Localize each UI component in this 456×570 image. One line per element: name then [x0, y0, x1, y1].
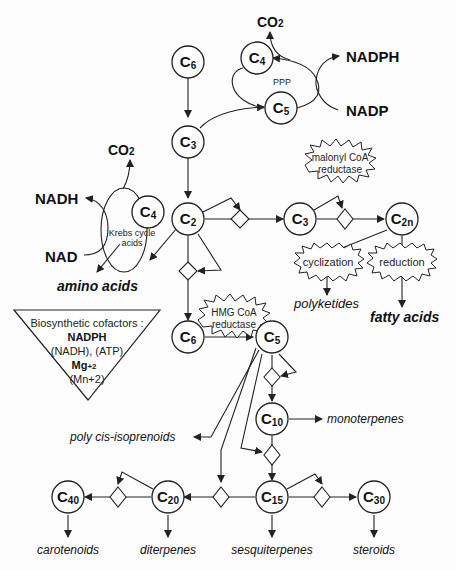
diamond-c2-c3 — [231, 210, 249, 228]
pathway-diagram: malonyl CoA reductase cyclization reduct… — [0, 0, 456, 570]
diamond-c2-c6 — [179, 262, 197, 280]
krebs-label-1: Krebs cycle — [109, 228, 156, 238]
edge-krebs-amino — [97, 244, 120, 272]
monoterpenes-label: monoterpenes — [327, 412, 404, 426]
node-c40: C40 — [52, 481, 84, 513]
malonyl-label-1: malonyl CoA — [312, 152, 369, 163]
diamond-c15-c30 — [314, 487, 330, 507]
edge-nadp-nadph — [316, 56, 339, 110]
fatty-acids-label: fatty acids — [370, 309, 439, 325]
carotenoids-label: carotenoids — [37, 543, 99, 557]
steroids-label: steroids — [353, 543, 395, 557]
reduction-burst: reduction — [367, 243, 437, 281]
node-c3-right: C3 — [284, 203, 316, 235]
edge-malonyl-diamond — [314, 196, 342, 210]
edge-c5-polycis — [194, 350, 259, 437]
nadph-label: NADPH — [346, 48, 399, 65]
cofactor-mn: (Mn+2) — [69, 373, 104, 385]
node-c2n: C2n — [386, 203, 418, 235]
ppp-label: PPP — [273, 77, 291, 87]
edge-c2-diamond2-loop — [198, 234, 221, 271]
node-c30: C30 — [358, 481, 390, 513]
cofactors-box: Biosynthetic cofactors : NADPH (NADH), (… — [14, 310, 160, 400]
cyclization-burst: cyclization — [294, 243, 364, 281]
co2-top-label: CO2 — [257, 14, 284, 30]
cofactors-heading: Biosynthetic cofactors : — [30, 317, 143, 329]
reduction-label: reduction — [379, 256, 424, 268]
node-c5-mid: C5 — [256, 321, 288, 353]
node-c10: C10 — [256, 403, 288, 435]
hmg-label-2: reductase — [212, 319, 256, 330]
diamond-c5-c10 — [264, 368, 280, 386]
edge-c5-c20-diamond — [221, 348, 256, 482]
malonyl-coa-reductase-burst: malonyl CoA reductase — [305, 139, 376, 183]
node-c15: C15 — [256, 481, 288, 513]
edge-c5-c15-diamond-loop — [241, 354, 262, 452]
node-c3-main: C3 — [172, 126, 204, 158]
node-c6-mid: C6 — [172, 321, 204, 353]
node-c6-top: C6 — [172, 46, 204, 78]
polyketides-label: polyketides — [293, 296, 360, 311]
cofactor-nadh-atp: (NADH), (ATP) — [51, 345, 124, 357]
sesquiterpenes-label: sesquiterpenes — [231, 543, 312, 557]
node-c2: C2 — [172, 203, 204, 235]
nadh-label: NADH — [35, 190, 78, 207]
malonyl-label-2: reductase — [318, 164, 362, 175]
edge-c20-diamond-loop — [118, 472, 153, 489]
krebs-label-2: acids — [121, 238, 143, 248]
diterpenes-label: diterpenes — [140, 543, 196, 557]
edge-c2-diamond1-loop — [203, 198, 240, 212]
diamond-c15-c20 — [213, 487, 229, 507]
edge-co2-left — [123, 160, 130, 189]
nadp-label: NADP — [346, 102, 389, 119]
node-c5-ppp: C5 — [265, 92, 297, 124]
co2-left-label: CO2 — [108, 142, 135, 158]
diamond-malonyl — [337, 209, 353, 229]
edge-c5-diamond-loop — [279, 354, 296, 376]
diamond-c20-c40 — [110, 487, 126, 507]
edge-c15-diamond-loop — [287, 474, 322, 489]
cyclization-label: cyclization — [303, 256, 354, 268]
diamond-c10-c15 — [264, 445, 280, 465]
node-c4-krebs: C4 — [132, 196, 164, 228]
edge-c3-c5 — [200, 107, 264, 128]
poly-cis-isoprenoids-label: poly cis-isoprenoids — [69, 430, 175, 444]
node-c4-ppp: C4 — [241, 42, 273, 74]
amino-acids-label: amino acids — [57, 278, 138, 294]
cofactor-nadph: NADPH — [67, 331, 106, 343]
node-c20: C20 — [152, 481, 184, 513]
nad-label: NAD — [45, 248, 78, 265]
hmg-label-1: HMG CoA — [211, 307, 257, 318]
